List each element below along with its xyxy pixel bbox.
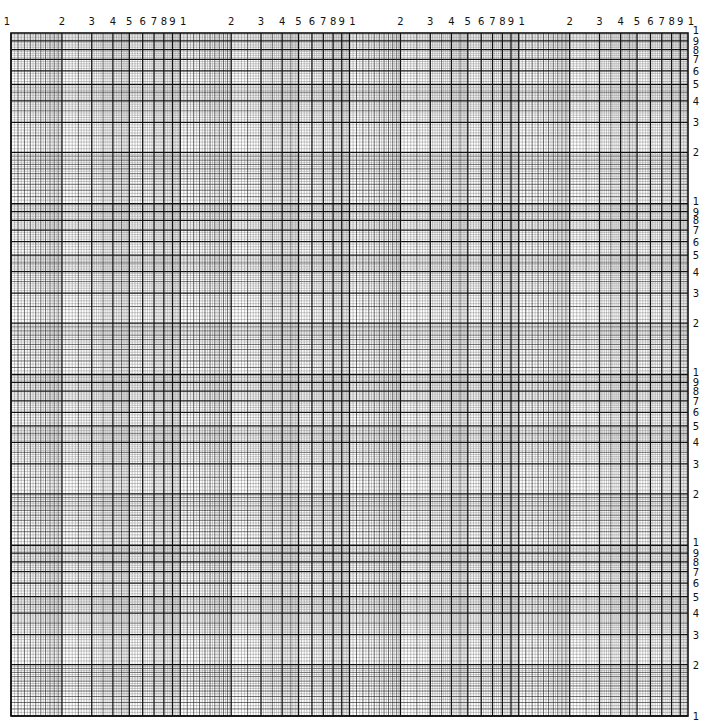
top-axis-label: 8 [161,16,167,27]
top-axis-label: 7 [659,16,665,27]
top-axis-label: 6 [647,16,653,27]
right-axis-label: 1 [693,367,699,378]
top-axis-label: 4 [448,16,454,27]
top-axis-label: 3 [427,16,433,27]
top-axis-label: 9 [508,16,514,27]
right-axis-label: 6 [693,407,699,418]
top-axis-label: 4 [110,16,116,27]
right-axis-label: 5 [693,250,699,261]
right-axis-label: 5 [693,592,699,603]
right-axis-label: 2 [693,489,699,500]
top-axis-label: 3 [596,16,602,27]
right-axis-label: 3 [693,117,699,128]
right-axis-label: 2 [693,318,699,329]
top-axis-label: 7 [151,16,157,27]
right-axis-label: 2 [693,660,699,671]
top-axis-label: 8 [330,16,336,27]
top-axis-label: 2 [397,16,403,27]
top-axis-label: 8 [668,16,674,27]
right-axis-label: 6 [693,237,699,248]
top-axis-label: 7 [320,16,326,27]
right-axis-label: 7 [693,54,699,65]
top-axis-label: 3 [258,16,264,27]
right-axis-label: 3 [693,288,699,299]
right-axis-label: 1 [693,196,699,207]
right-axis-label: 4 [693,96,699,107]
top-axis-label: 7 [489,16,495,27]
top-axis-label: 8 [499,16,505,27]
right-axis-label: 3 [693,630,699,641]
top-axis-label: 3 [89,16,95,27]
top-axis-label: 1 [519,16,525,27]
top-axis-label: 4 [617,16,623,27]
top-axis-label: 1 [180,16,186,27]
top-axis-label: 5 [634,16,640,27]
top-axis-label: 5 [126,16,132,27]
top-axis-label: 6 [478,16,484,27]
right-axis-label: 4 [693,267,699,278]
top-axis-labels: 1234567891234567891234567891234567891 [4,16,694,27]
right-axis-label: 6 [693,66,699,77]
right-axis-label: 1 [693,537,699,548]
right-axis-label: 6 [693,578,699,589]
right-axis-label: 2 [693,147,699,158]
right-axis-label: 5 [693,79,699,90]
top-axis-label: 2 [59,16,65,27]
right-axis-label: 7 [693,396,699,407]
top-axis-label: 6 [140,16,146,27]
top-axis-label: 2 [567,16,573,27]
top-axis-label: 5 [295,16,301,27]
top-axis-label: 5 [465,16,471,27]
right-axis-label: 7 [693,567,699,578]
top-axis-label: 4 [279,16,285,27]
top-axis-label: 6 [309,16,315,27]
right-axis-label: 7 [693,225,699,236]
right-axis-labels: 1987654321987654321987654321987654321 [693,25,699,722]
top-axis-label: 9 [169,16,175,27]
top-axis-label: 1 [349,16,355,27]
right-axis-label: 5 [693,421,699,432]
top-axis-label: 2 [228,16,234,27]
log-log-graph-paper: 1234567891234567891234567891234567891 19… [0,0,710,727]
top-axis-label: 1 [4,16,10,27]
right-axis-label: 4 [693,437,699,448]
right-axis-label: 3 [693,459,699,470]
right-axis-label: 1 [693,25,699,36]
top-axis-label: 9 [677,16,683,27]
right-axis-label: 1 [693,711,699,722]
right-axis-label: 4 [693,608,699,619]
top-axis-label: 9 [339,16,345,27]
